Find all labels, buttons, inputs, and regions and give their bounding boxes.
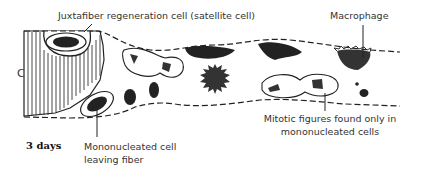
small-granule xyxy=(360,89,369,97)
small-granule xyxy=(355,82,359,86)
label-region-c: C xyxy=(17,68,25,80)
mitotic-cell xyxy=(262,74,338,97)
label-mononucleated-2: leaving fiber xyxy=(84,154,143,166)
label-stage: 3 days xyxy=(26,140,61,152)
cell-fragment xyxy=(149,82,159,98)
label-satellite-cell: Juxtafiber regeneration cell (satellite … xyxy=(58,10,255,22)
label-macrophage: Macrophage xyxy=(330,10,389,22)
muscle-fiber-diagram xyxy=(0,0,430,179)
label-mononucleated-1: Mononucleated cell xyxy=(84,141,176,153)
necrotic-fragment xyxy=(185,46,235,59)
dividing-cell-left xyxy=(123,48,184,77)
macrophage-middle xyxy=(200,64,230,94)
necrotic-fragment-right xyxy=(258,42,302,60)
label-mitotic-1: Mitotic figures found only in xyxy=(255,113,405,125)
label-mitotic-2: mononucleated cells xyxy=(255,126,405,138)
cell-fragment xyxy=(124,89,136,105)
